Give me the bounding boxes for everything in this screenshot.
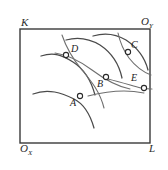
tangency-point-a — [77, 93, 82, 98]
isoquant-x-0 — [33, 91, 94, 128]
corner-label-oy-base: O — [141, 15, 149, 27]
point-label-c: C — [131, 40, 138, 50]
corner-label-k-base: K — [21, 16, 28, 28]
corner-label-ox-sub: X — [28, 149, 32, 157]
isoquant-y-1 — [62, 35, 104, 108]
corner-label-oy: OY — [141, 16, 153, 30]
isoquant-x-1 — [41, 54, 95, 95]
tangency-point-d — [63, 52, 68, 57]
corner-label-k: K — [21, 17, 28, 31]
corner-label-ox-base: O — [20, 142, 28, 154]
isoquant-x-3 — [93, 34, 148, 70]
point-label-a: A — [70, 98, 76, 108]
point-label-e: E — [131, 73, 137, 83]
corner-label-ox: OX — [20, 143, 32, 157]
isoquant-y-3 — [88, 91, 144, 96]
corner-label-oy-sub: Y — [149, 22, 153, 30]
corner-label-l-base: L — [149, 142, 155, 154]
point-label-b: B — [97, 79, 103, 89]
point-label-d: D — [71, 44, 78, 54]
tangency-point-b — [103, 74, 108, 79]
corner-label-l: L — [149, 143, 155, 157]
tangency-point-e — [141, 85, 146, 90]
edgeworth-box-figure: K OY OX L A B C D E — [0, 0, 168, 170]
tangency-point-c — [125, 49, 130, 54]
